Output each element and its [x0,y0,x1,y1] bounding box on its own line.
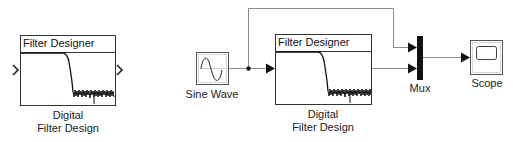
dfd-standalone-label-line2: Filter Design [18,122,118,135]
dfd-standalone-label-line1: Digital [18,109,118,122]
dfd-connected-label-line2: Filter Design [273,121,373,134]
block-mux[interactable] [412,34,428,82]
output-port-chevron [117,65,122,75]
sine-wave-label[interactable]: Sine Wave [172,88,252,101]
block-scope[interactable] [471,41,503,75]
mux-label[interactable]: Mux [400,82,440,95]
branch-junction-dot [246,66,250,70]
block-sine-wave[interactable] [197,53,229,85]
dfd-standalone-label[interactable]: Digital Filter Design [18,109,118,135]
dfd-connected-label-line1: Digital [273,108,373,121]
dfd-standalone-title: Filter Designer [23,37,95,49]
dfd-connected-label[interactable]: Digital Filter Design [273,108,373,134]
dfd-connected-title: Filter Designer [278,36,350,48]
scope-label[interactable]: Scope [462,77,512,90]
scope-screen-icon [477,47,497,60]
input-port-chevron [13,65,18,75]
